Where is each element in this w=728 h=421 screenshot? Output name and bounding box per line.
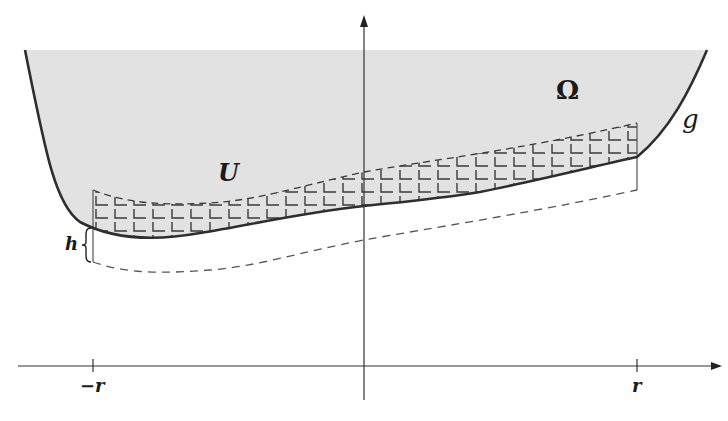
label-minus-r: −r [80,375,106,396]
h-brace-icon [82,228,91,262]
label-r: r [632,375,643,396]
label-omega: Ω [556,75,579,105]
y-axis-arrow-icon [360,15,368,27]
label-g: g [682,104,699,134]
label-h: h [65,233,78,254]
diagram-canvas: U Ω g h −r r [0,0,728,421]
label-U: U [218,158,241,187]
x-axis-arrow-icon [711,362,722,370]
